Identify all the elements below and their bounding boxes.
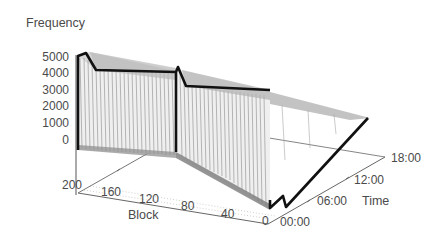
block-tick-label: 200 [62, 178, 82, 192]
block-tick-label: 160 [101, 185, 121, 199]
3d-frequency-chart: Frequency 5000 4000 3000 2000 1000 0 [0, 0, 447, 237]
time-axis-line [268, 157, 385, 224]
block-tick-label: 120 [139, 192, 159, 206]
z-tick-label: 2000 [42, 99, 69, 113]
block-tick-label: 0 [262, 214, 269, 228]
time-tick-label: 12:00 [354, 173, 384, 187]
z-tick-label: 5000 [42, 50, 69, 64]
time-tick-label: 06:00 [317, 194, 347, 208]
surface-part-3 [270, 92, 370, 160]
time-axis-title: Time [362, 194, 389, 208]
block-tick-label: 40 [221, 207, 235, 221]
z-tick-label: 1000 [42, 116, 69, 130]
z-axis-title: Frequency [26, 16, 86, 30]
chart-canvas: Frequency 5000 4000 3000 2000 1000 0 [0, 0, 447, 237]
z-tick-label: 0 [62, 133, 69, 147]
z-tick-labels: 5000 4000 3000 2000 1000 0 [42, 50, 69, 147]
time-tick-label: 00:00 [280, 215, 310, 229]
block-axis-title: Block [128, 208, 159, 222]
block-tick-label: 80 [181, 199, 195, 213]
z-tick-label: 4000 [42, 66, 69, 80]
z-tick-label: 3000 [42, 83, 69, 97]
time-tick-label: 18:00 [391, 151, 421, 165]
